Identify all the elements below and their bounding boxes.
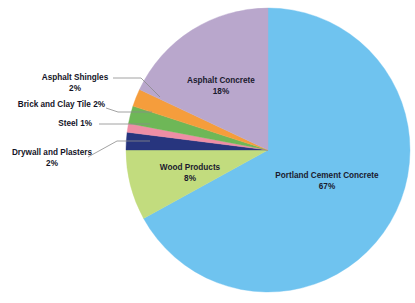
slice-label-value: 18% bbox=[213, 87, 230, 96]
slice-label-name: Brick and Clay Tile 2% bbox=[18, 100, 106, 109]
pie-chart-page: Portland Cement Concrete67%Wood Products… bbox=[0, 0, 415, 303]
slice-label-name: Wood Products bbox=[160, 163, 221, 172]
slice-label-value: 8% bbox=[184, 174, 197, 183]
slice-label-value: 2% bbox=[46, 159, 59, 168]
slice-label-value: 67% bbox=[319, 182, 336, 191]
slice-label-name: Drywall and Plasters bbox=[12, 148, 93, 157]
slice-label-name: Steel 1% bbox=[58, 119, 92, 128]
slice-label-name: Asphalt Shingles bbox=[42, 73, 109, 82]
pie-slices-group bbox=[126, 8, 410, 292]
pie-chart: Portland Cement Concrete67%Wood Products… bbox=[0, 0, 415, 303]
slice-label-name: Asphalt Concrete bbox=[187, 76, 255, 85]
slice-label-name: Portland Cement Concrete bbox=[275, 171, 379, 180]
slice-label-value: 2% bbox=[69, 84, 82, 93]
